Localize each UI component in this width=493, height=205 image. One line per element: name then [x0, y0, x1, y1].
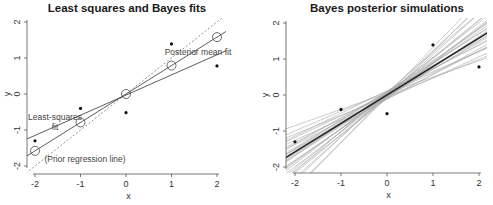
- y-tick-label: -1: [12, 126, 22, 134]
- annotation-fit: fit: [52, 122, 59, 132]
- data-point: [293, 140, 296, 143]
- data-point: [124, 111, 127, 114]
- y-tick-label: 2: [12, 19, 22, 24]
- panel-posterior-simulations: Bayes posterior simulations-2-1012-2-101…: [260, 0, 488, 200]
- figure: Least squares and Bayes fits-2-1012-2-10…: [0, 0, 493, 205]
- data-point: [477, 65, 480, 68]
- x-tick-label: 0: [123, 179, 128, 189]
- data-point: [385, 112, 388, 115]
- chart-title: Bayes posterior simulations: [310, 2, 464, 14]
- data-point: [215, 64, 218, 67]
- simulation-line: [286, 19, 488, 177]
- chart-title: Least squares and Bayes fits: [48, 2, 207, 14]
- x-tick-label: -1: [76, 179, 84, 189]
- y-tick-label: 1: [271, 56, 281, 61]
- x-tick-label: -2: [291, 178, 299, 188]
- y-tick-label: -2: [12, 162, 22, 170]
- panel-least-squares-bayes: Least squares and Bayes fits-2-1012-2-10…: [2, 2, 232, 201]
- y-tick-label: 0: [12, 91, 22, 96]
- posterior-mean-line: [286, 32, 488, 157]
- simulation-line: [286, 5, 488, 179]
- simulation-line: [286, 16, 488, 171]
- data-point: [79, 107, 82, 110]
- x-tick-label: 2: [476, 178, 481, 188]
- x-tick-label: 0: [384, 178, 389, 188]
- y-tick-label: 2: [271, 20, 281, 25]
- data-point: [431, 43, 434, 46]
- plot-area: [286, 0, 488, 200]
- y-tick-label: -2: [271, 163, 281, 171]
- x-tick-label: -2: [31, 179, 39, 189]
- charts-canvas: Least squares and Bayes fits-2-1012-2-10…: [0, 0, 493, 205]
- y-tick-label: 1: [12, 55, 22, 60]
- y-axis-label: y: [2, 91, 12, 96]
- simulation-line: [286, 0, 488, 200]
- x-tick-label: 1: [430, 178, 435, 188]
- annotation-least-squares: Least-squares: [28, 112, 82, 122]
- annotation-posterior-mean-fit: Posterior mean fit: [165, 47, 232, 57]
- plot-area: [26, 15, 226, 173]
- x-tick-label: 1: [169, 179, 174, 189]
- annotation-prior-regression-line: (Prior regression line): [44, 154, 125, 164]
- x-axis-label: x: [126, 191, 131, 201]
- x-axis-label: x: [386, 190, 391, 200]
- prior-regression-line: [26, 15, 226, 173]
- data-point: [170, 42, 173, 45]
- y-tick-label: 0: [271, 92, 281, 97]
- x-tick-label: 2: [214, 179, 219, 189]
- y-axis-label: y: [260, 92, 270, 97]
- data-point: [33, 139, 36, 142]
- data-point: [339, 108, 342, 111]
- x-tick-label: -1: [337, 178, 345, 188]
- y-tick-label: -1: [271, 127, 281, 135]
